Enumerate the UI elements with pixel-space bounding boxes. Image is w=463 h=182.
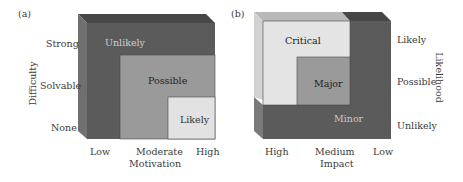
panel-a-top-face: [78, 14, 215, 23]
panel-b-top-face-dark: [342, 12, 391, 21]
panel-b-tag: (b): [231, 8, 245, 19]
panel-a-y-tick-none: None: [51, 122, 77, 133]
panel-b-x-tick-high: High: [265, 146, 289, 157]
panel-a-left-face: [78, 14, 87, 139]
panel-b-left-face-dark: [254, 97, 263, 139]
panel-a-x-tick-moderate: Moderate: [136, 146, 183, 157]
panel-b-top-face-light: [254, 12, 350, 21]
panel-a-label-possible: Possible: [148, 75, 187, 86]
panel-b-x-axis-label: Impact: [320, 158, 354, 169]
panel-b-x-tick-medium: Medium: [315, 146, 355, 157]
panel-b-y-tick-likely: Likely: [397, 34, 426, 45]
panel-b-left-face-light: [254, 12, 263, 100]
panel-a-x-tick-high: High: [196, 146, 220, 157]
panel-a-y-axis-label: Difficulty: [27, 61, 38, 105]
panel-a-x-axis-label: Motivation: [129, 158, 181, 169]
panel-a-y-tick-strong: Strong: [46, 38, 79, 49]
panel-b-label-major: Major: [314, 78, 343, 89]
panel-a-tag: (a): [18, 8, 31, 19]
panel-b-y-tick-unlikely: Unlikely: [397, 120, 437, 131]
panel-b-label-critical: Critical: [285, 35, 321, 46]
panel-b-y-tick-possible: Possible: [397, 76, 436, 87]
panel-a-label-likely: Likely: [180, 114, 209, 125]
panel-b-label-minor: Minor: [334, 113, 363, 124]
panel-a-x-tick-low: Low: [90, 146, 110, 157]
panel-b-x-tick-low: Low: [373, 146, 393, 157]
panel-b-y-axis-label: Likelihood: [434, 52, 445, 102]
panel-a-y-tick-solvable: Solvable: [40, 80, 81, 91]
panel-b-box: [254, 12, 391, 139]
panel-a-label-unlikely: Unlikely: [105, 37, 145, 48]
diagram-canvas: [0, 0, 463, 182]
